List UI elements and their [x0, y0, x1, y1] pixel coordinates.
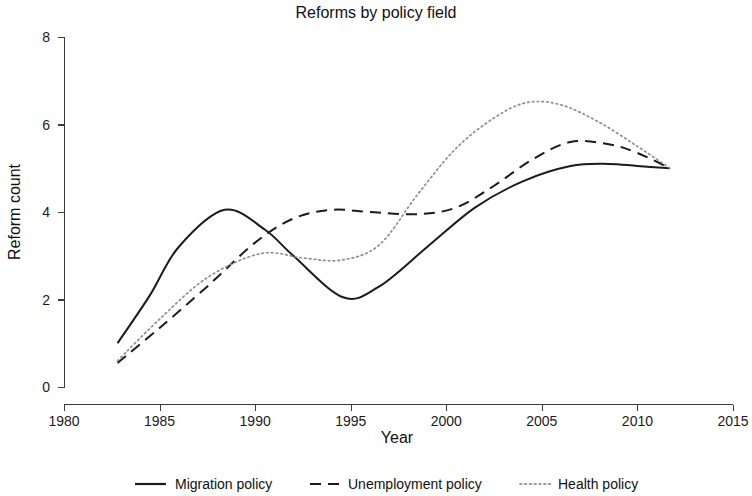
- legend-label-migration-policy: Migration policy: [175, 476, 272, 492]
- x-tick-label: 1995: [335, 413, 366, 429]
- x-tick-label: 2015: [717, 413, 748, 429]
- x-tick-label: 1990: [240, 413, 271, 429]
- reforms-by-policy-field-chart: Reforms by policy field Reform count Yea…: [0, 0, 752, 496]
- series-line-unemployment-policy: [118, 141, 670, 363]
- x-tick-label: 1980: [48, 413, 79, 429]
- series-group: [118, 101, 670, 362]
- y-axis: 02468: [42, 29, 64, 395]
- chart-title: Reforms by policy field: [296, 4, 457, 21]
- x-tick-label: 2000: [431, 413, 462, 429]
- series-line-migration-policy: [118, 164, 670, 343]
- x-tick-label: 1985: [144, 413, 175, 429]
- y-tick-label: 4: [42, 204, 50, 220]
- x-tick-label: 2010: [622, 413, 653, 429]
- chart-legend: Migration policyUnemployment policyHealt…: [135, 476, 638, 492]
- chart-container: Reforms by policy field Reform count Yea…: [0, 0, 752, 496]
- x-axis-title: Year: [381, 429, 414, 446]
- y-tick-label: 6: [42, 117, 50, 133]
- x-axis: 19801985199019952000200520102015: [48, 405, 748, 430]
- y-tick-label: 2: [42, 292, 50, 308]
- x-tick-group: 19801985199019952000200520102015: [48, 405, 748, 430]
- y-axis-title: Reform count: [6, 163, 23, 260]
- legend-label-unemployment-policy: Unemployment policy: [348, 476, 482, 492]
- y-tick-group: 02468: [42, 29, 64, 395]
- legend-label-health-policy: Health policy: [558, 476, 638, 492]
- x-tick-label: 2005: [526, 413, 557, 429]
- y-tick-label: 8: [42, 29, 50, 45]
- y-tick-label: 0: [42, 379, 50, 395]
